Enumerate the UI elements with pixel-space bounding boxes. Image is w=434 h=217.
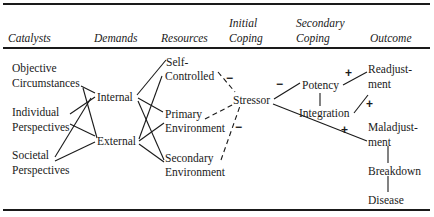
- catalyst-objective-line2: Circumstances: [12, 76, 80, 91]
- secondary-coping-potency: Potency: [302, 78, 339, 93]
- diagram-connectors: − − − + + +: [0, 0, 434, 217]
- link-external-primary: [139, 123, 164, 141]
- initial-coping-stressor: Stressor: [233, 93, 270, 108]
- sign-stressor-potency: −: [276, 77, 283, 91]
- resource-self-controlled-line1: Self-: [166, 55, 188, 70]
- demand-external: External: [97, 134, 136, 149]
- sign-self-stressor: −: [226, 71, 233, 85]
- resource-primary-line2: Environment: [165, 121, 225, 136]
- outcome-disease: Disease: [368, 193, 404, 208]
- outcome-readjustment-line2: ment: [368, 77, 391, 92]
- catalyst-objective-line1: Objective: [12, 61, 57, 76]
- catalyst-individual-line1: Individual: [12, 105, 59, 120]
- catalyst-societal-line1: Societal: [12, 148, 49, 163]
- demand-internal: Internal: [97, 90, 133, 105]
- link-external-secondary: [139, 144, 164, 162]
- sign-primary-stressor: −: [235, 120, 242, 134]
- resource-secondary-line1: Secondary: [165, 151, 214, 166]
- catalyst-societal-line2: Perspectives: [12, 163, 69, 178]
- sign-integration-readjustment: +: [366, 97, 373, 111]
- outcome-maladjustment-line1: Maladjust-: [368, 120, 418, 135]
- link-societal-external: [55, 142, 95, 161]
- sign-stressor-maladjustment: +: [341, 123, 348, 137]
- catalyst-individual-line2: Perspectives: [12, 120, 69, 135]
- resource-primary-line1: Primary: [165, 107, 202, 122]
- link-objective-external: [83, 88, 97, 138]
- resource-self-controlled-line2: Controlled: [165, 69, 214, 84]
- resource-secondary-line2: Environment: [165, 165, 225, 180]
- secondary-coping-integration: Integration: [299, 106, 349, 121]
- outcome-maladjustment-line2: ment: [368, 135, 391, 150]
- outcome-breakdown: Breakdown: [368, 164, 421, 179]
- sign-potency-readjustment: +: [345, 66, 352, 80]
- outcome-readjustment-line1: Readjust-: [368, 62, 412, 77]
- link-primary-stressor: [205, 104, 234, 119]
